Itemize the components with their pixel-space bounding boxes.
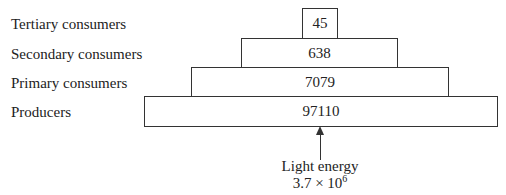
primary-label: Primary consumers — [11, 74, 127, 92]
secondary-label: Secondary consumers — [11, 45, 142, 63]
tertiary-value: 45 — [313, 15, 328, 32]
primary-value: 7079 — [305, 74, 335, 91]
secondary-box: 638 — [241, 38, 398, 68]
tertiary-box: 45 — [302, 8, 338, 39]
secondary-value: 638 — [308, 45, 331, 62]
tertiary-label: Tertiary consumers — [11, 15, 126, 33]
light-energy-exponent: 6 — [342, 173, 347, 184]
producers-value: 97110 — [303, 103, 340, 120]
producers-box: 97110 — [144, 96, 498, 127]
primary-box: 7079 — [191, 67, 449, 97]
light-energy-value: 3.7 × 106 — [250, 175, 390, 192]
producers-label: Producers — [11, 103, 71, 121]
light-energy-mantissa: 3.7 × 10 — [293, 175, 343, 191]
arrow-shaft — [320, 130, 321, 160]
light-energy-label: Light energy — [250, 158, 390, 175]
